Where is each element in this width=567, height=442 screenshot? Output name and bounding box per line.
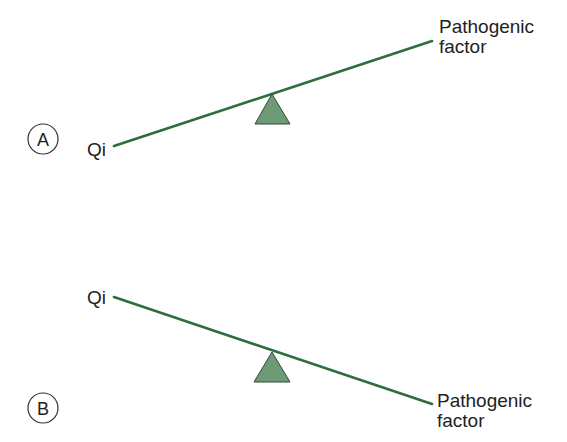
panel-a-marker-label: A bbox=[37, 130, 49, 150]
panel-b: B Qi Pathogenic factor bbox=[28, 287, 532, 431]
panel-a: A Qi Pathogenic factor bbox=[28, 16, 534, 160]
panel-b-marker-label: B bbox=[37, 399, 49, 419]
panel-b-pathogenic-label-line1: Pathogenic bbox=[437, 390, 532, 411]
panel-b-fulcrum-triangle-icon bbox=[254, 352, 290, 382]
panel-a-beam bbox=[114, 41, 432, 146]
panel-a-pathogenic-label-line1: Pathogenic bbox=[439, 16, 534, 37]
seesaw-diagram: A Qi Pathogenic factor B Qi Pathogenic f… bbox=[0, 0, 567, 442]
panel-b-beam bbox=[114, 297, 432, 404]
panel-b-pathogenic-label-line2: factor bbox=[437, 410, 485, 431]
panel-a-pathogenic-label-line2: factor bbox=[439, 36, 487, 57]
panel-a-qi-label: Qi bbox=[87, 139, 106, 160]
panel-b-qi-label: Qi bbox=[87, 287, 106, 308]
